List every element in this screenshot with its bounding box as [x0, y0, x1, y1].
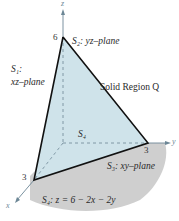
y-tick-3: 3 [144, 146, 149, 155]
x-axis-label: x [6, 202, 10, 210]
label-solid-region: Solid Region Q [100, 83, 159, 93]
label-s3: S₃: xy–plane [107, 162, 155, 172]
z-axis-label: z [61, 0, 64, 8]
z-tick-6: 6 [53, 33, 58, 42]
label-s2: S₂: yz–plane [72, 37, 119, 47]
label-s1: S₁: [11, 65, 22, 75]
x-tick-3: 3 [22, 173, 27, 182]
label-s4-face: S₄ [78, 130, 86, 140]
label-s1-plane: xz–plane [11, 78, 45, 88]
z-axis-arrow-icon [61, 9, 65, 15]
y-axis-arrow-icon [165, 141, 171, 145]
y-axis-label: y [172, 138, 176, 146]
label-s4-equation: S₄: z = 6 − 2x − 2y [42, 196, 115, 206]
diagram-canvas [0, 0, 179, 221]
